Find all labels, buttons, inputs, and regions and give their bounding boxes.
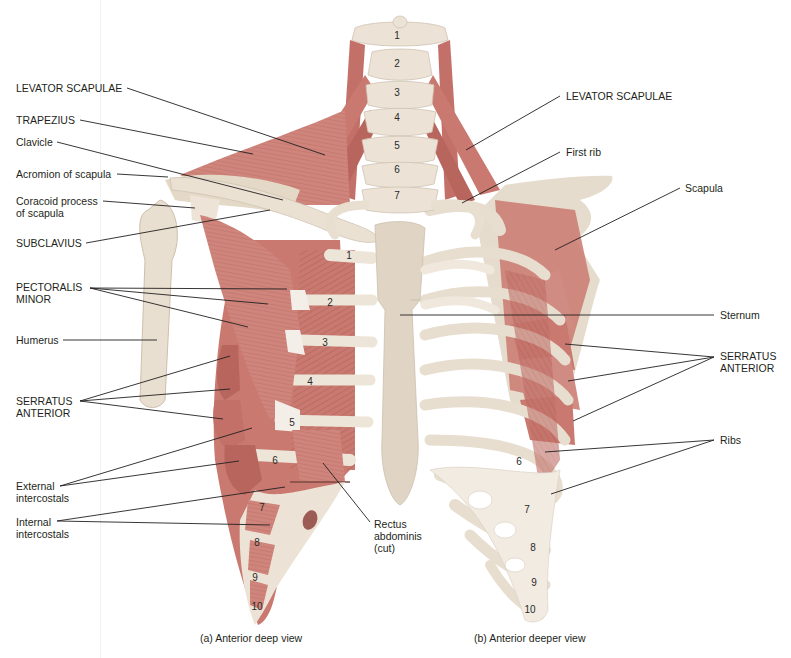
label-trapezius: TRAPEZIUS (16, 114, 75, 126)
vertebra-number-1: 1 (394, 30, 400, 41)
label-subclavius: SUBCLAVIUS (16, 237, 82, 249)
sternum-bone (375, 222, 425, 505)
leader-external-intercostals (60, 461, 239, 486)
rib-number-a-8: 8 (254, 537, 260, 548)
label-acromion-of-scapula: Acromion of scapula (16, 168, 111, 180)
rib-number-b-10: 10 (524, 604, 536, 615)
leader-serratus-anterior-right (565, 344, 714, 357)
leader-levator-scapulae-right (466, 96, 560, 150)
rib-number-a-6: 6 (272, 455, 278, 466)
label-levator-scapulae-right: LEVATOR SCAPULAE (566, 90, 672, 102)
rib-number-b-9: 9 (531, 577, 537, 588)
label-ribs: Ribs (720, 434, 741, 446)
vertebra-number-4: 4 (394, 112, 400, 123)
rib-number-a-3: 3 (322, 337, 328, 348)
label-first-rib: First rib (566, 146, 601, 158)
rib-number-a-5: 5 (289, 417, 295, 428)
leader-coracoid-process (103, 201, 195, 208)
humerus-bone (140, 200, 178, 408)
rib-number-a-9: 9 (252, 572, 258, 583)
vertebra-number-6: 6 (394, 164, 400, 175)
rib-number-a-7: 7 (259, 502, 265, 513)
leader-trapezius (80, 120, 253, 154)
label-levator-scapulae-left: LEVATOR SCAPULAE (16, 82, 122, 94)
leader-acromion-of-scapula (117, 174, 168, 177)
label-sternum: Sternum (720, 309, 760, 321)
rib-number-b-6: 6 (516, 456, 522, 467)
label-coracoid-process: Coracoid process of scapula (16, 195, 98, 219)
label-external-intercostals: External intercostals (16, 480, 69, 504)
caption-panel-a: (a) Anterior deep view (200, 632, 302, 644)
caption-panel-b: (b) Anterior deeper view (474, 632, 585, 644)
label-serratus-anterior-right: SERRATUS ANTERIOR (720, 350, 776, 374)
rib-number-a-10: 10 (251, 601, 263, 612)
thorax-illustration: 1234567 12345678910 678910 (0, 0, 791, 658)
label-serratus-anterior-left: SERRATUS ANTERIOR (16, 395, 72, 419)
vertebra-number-7: 7 (394, 190, 400, 201)
label-clavicle: Clavicle (16, 136, 53, 148)
leader-levator-scapulae-left (127, 88, 325, 155)
label-rectus-abdominis: Rectus abdominis (cut) (374, 518, 422, 554)
rib-number-a-4: 4 (307, 376, 313, 387)
rib-number-a-1: 1 (346, 250, 352, 261)
cervical-spine (352, 16, 448, 213)
rib-number-a-2: 2 (327, 297, 333, 308)
vertebra-number-2: 2 (394, 58, 400, 69)
leader-serratus-anterior-right (568, 357, 714, 381)
rib-number-b-8: 8 (530, 542, 536, 553)
vertebra-number-3: 3 (394, 87, 400, 98)
rectus-abdominis-muscle (292, 430, 345, 482)
rib-number-b-7: 7 (524, 504, 530, 515)
label-humerus: Humerus (16, 334, 59, 346)
label-internal-intercostals: Internal intercostals (16, 516, 69, 540)
label-scapula: Scapula (685, 182, 723, 194)
vertebra-number-5: 5 (394, 140, 400, 151)
label-pectoralis-minor: PECTORALIS MINOR (16, 281, 82, 305)
leader-ribs (551, 440, 714, 494)
right-costal-margin (430, 467, 560, 622)
leader-serratus-anterior-right (573, 357, 714, 421)
